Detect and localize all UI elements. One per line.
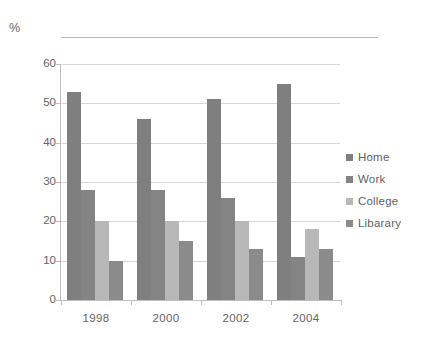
x-axis-tick-label: 2002 [201,312,271,324]
bar-chart: % 0102030405060 1998200020022004 HomeWor… [0,0,423,351]
legend-label: Libarary [358,217,401,229]
x-axis-tick-mark [61,300,62,305]
y-axis-tick-label: 30 [30,175,56,187]
x-axis-tick-label: 2000 [131,312,201,324]
legend-item: Libarary [346,212,401,234]
bar [81,190,95,300]
bar [95,221,109,300]
bar [277,84,291,300]
legend-swatch-icon [346,220,353,227]
legend-swatch-icon [346,198,353,205]
y-axis-tick-label: 0 [30,293,56,305]
legend-label: College [358,195,398,207]
y-axis-tick-label: 50 [30,96,56,108]
bar [291,257,305,300]
bars-container [61,64,341,300]
legend-swatch-icon [346,154,353,161]
bar [165,221,179,300]
y-axis-tick-labels: 0102030405060 [26,64,56,301]
y-axis-unit-label: % [9,21,20,35]
bar [109,261,123,300]
bar [151,190,165,300]
legend-label: Work [358,173,385,185]
legend-item: Home [346,146,401,168]
y-axis-tick-label: 40 [30,136,56,148]
x-axis-tick-label: 2004 [271,312,341,324]
chart-title [61,20,378,34]
chart-legend: HomeWorkCollegeLibarary [346,146,401,234]
bar [319,249,333,300]
bar [249,249,263,300]
bar [221,198,235,300]
x-axis-tick-label: 1998 [61,312,131,324]
legend-item: College [346,190,401,212]
bar [235,221,249,300]
legend-swatch-icon [346,176,353,183]
bar [207,99,221,300]
x-axis-tick-mark [201,300,202,305]
bar [67,92,81,300]
x-axis-tick-mark [271,300,272,305]
bar [305,229,319,300]
legend-label: Home [358,151,389,163]
y-axis-tick-label: 10 [30,254,56,266]
x-axis-tick-mark [341,300,342,305]
y-axis-tick-label: 20 [30,214,56,226]
y-axis-tick-label: 60 [30,57,56,69]
legend-item: Work [346,168,401,190]
bar [179,241,193,300]
bar [137,119,151,300]
title-underline-rule [61,37,378,38]
x-axis-tick-mark [131,300,132,305]
